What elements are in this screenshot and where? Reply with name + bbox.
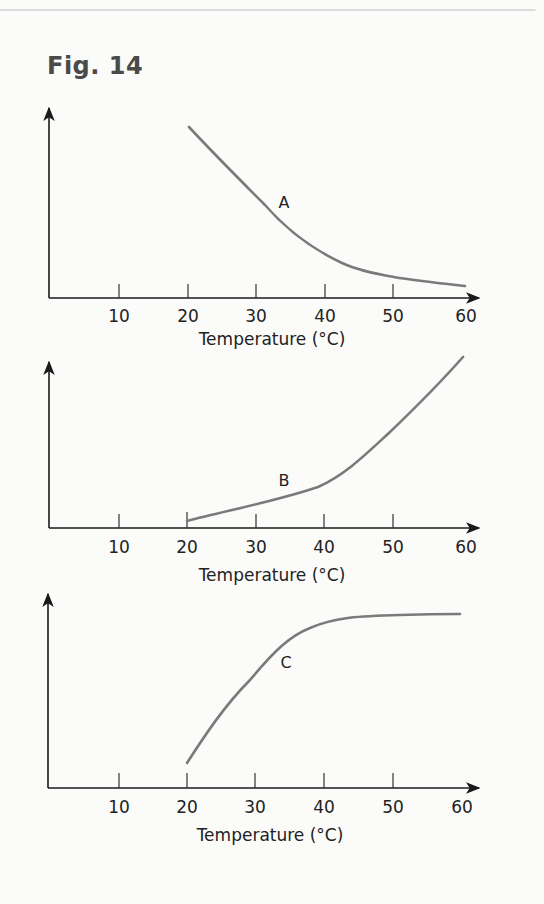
figure-charts: 10 20 30 40 50 60 Temperature (°C) A [0, 0, 544, 904]
x-tick-labels: 10 20 30 40 50 60 [108, 797, 473, 817]
curve-c [187, 614, 460, 763]
svg-text:20: 20 [176, 797, 198, 817]
svg-text:30: 30 [244, 797, 266, 817]
svg-text:50: 50 [382, 797, 404, 817]
x-tick-labels: 10 20 30 40 50 60 [108, 537, 477, 557]
svg-text:10: 10 [108, 797, 130, 817]
x-ticks [119, 512, 393, 528]
svg-text:60: 60 [455, 306, 477, 326]
svg-text:40: 40 [313, 537, 335, 557]
x-axis-title: Temperature (°C) [198, 565, 346, 585]
curve-label-a: A [279, 193, 290, 212]
chart-panel-a: 10 20 30 40 50 60 Temperature (°C) A [49, 108, 479, 349]
x-ticks [119, 773, 393, 788]
svg-text:60: 60 [451, 797, 473, 817]
figure-page: Fig. 14 10 20 30 40 50 6 [0, 0, 544, 904]
svg-text:20: 20 [177, 306, 199, 326]
svg-text:50: 50 [382, 306, 404, 326]
x-tick-labels: 10 20 30 40 50 60 [108, 306, 477, 326]
curve-label-c: C [280, 653, 291, 672]
svg-text:50: 50 [382, 537, 404, 557]
x-axis-title: Temperature (°C) [198, 329, 346, 349]
svg-text:40: 40 [313, 797, 335, 817]
svg-text:30: 30 [245, 537, 267, 557]
chart-panel-c: 10 20 30 40 50 60 Temperature (°C) C [48, 594, 479, 845]
curve-label-b: B [279, 471, 290, 490]
svg-text:10: 10 [108, 306, 130, 326]
svg-text:10: 10 [108, 537, 130, 557]
svg-text:40: 40 [314, 306, 336, 326]
svg-text:60: 60 [455, 537, 477, 557]
x-ticks [119, 284, 393, 298]
svg-text:30: 30 [245, 306, 267, 326]
curve-a [189, 127, 465, 286]
curve-b [187, 357, 463, 521]
chart-panel-b: 10 20 30 40 50 60 Temperature (°C) B [49, 357, 479, 585]
svg-text:20: 20 [176, 537, 198, 557]
x-axis-title: Temperature (°C) [196, 825, 344, 845]
